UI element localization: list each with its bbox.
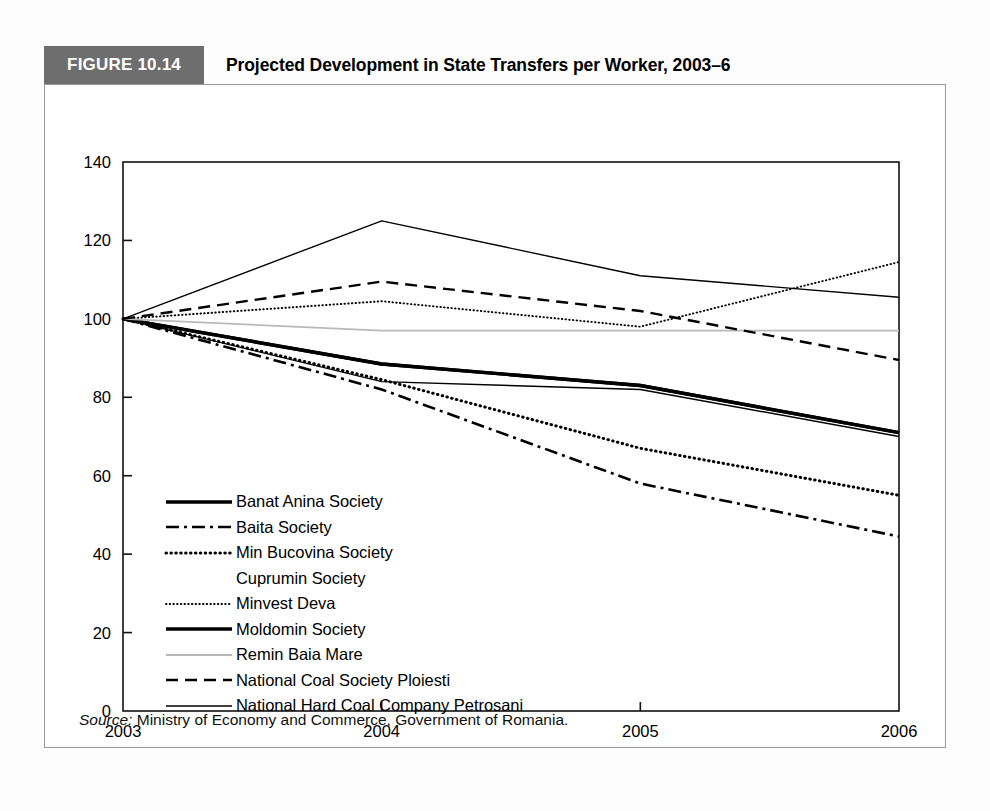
figure-header: FIGURE 10.14 Projected Development in St… [44, 46, 946, 84]
legend-item: Moldomin Society [164, 617, 594, 643]
legend-item-label: Moldomin Society [236, 620, 365, 639]
legend-item-label: Cuprumin Society [236, 569, 365, 588]
chart-series-line [123, 282, 899, 360]
chart-series-line [123, 221, 899, 319]
legend-item: Remin Baia Mare [164, 642, 594, 668]
legend-key-swatch [164, 493, 236, 511]
y-axis-tick-label: 40 [93, 545, 111, 563]
legend-item-label: National Coal Society Ploiesti [236, 671, 450, 690]
legend-item: National Coal Society Ploiesti [164, 668, 594, 694]
legend-key-swatch [164, 518, 236, 536]
legend-key-swatch [164, 646, 236, 664]
legend-item-label: Minvest Deva [236, 594, 335, 613]
legend-item: Min Bucovina Society [164, 540, 594, 566]
y-axis-tick-label: 60 [93, 467, 111, 485]
legend-key-swatch [164, 544, 236, 562]
chart-legend: Banat Anina SocietyBaita SocietyMin Buco… [164, 489, 594, 719]
y-axis-tick-label: 120 [83, 231, 111, 249]
legend-item: Banat Anina Society [164, 489, 594, 515]
source-text: Ministry of Economy and Commerce, Govern… [132, 711, 568, 728]
x-axis-tick-label: 2005 [622, 722, 659, 740]
y-axis-tick-label: 100 [83, 310, 111, 328]
chart-series-line [123, 319, 899, 495]
y-axis-tick-label: 140 [83, 153, 111, 171]
legend-key-swatch [164, 671, 236, 689]
legend-key-swatch [164, 620, 236, 638]
y-axis-tick-label: 80 [93, 388, 111, 406]
legend-item: Cuprumin Society [164, 566, 594, 592]
legend-key-swatch [164, 569, 236, 587]
source-label: Source: [79, 711, 132, 728]
y-axis-tick-label: 20 [93, 624, 111, 642]
figure-source-note: Source: Ministry of Economy and Commerce… [79, 711, 568, 729]
legend-item-label: Remin Baia Mare [236, 645, 363, 664]
figure-body: 0204060801001201402003200420052006 Banat… [44, 84, 946, 748]
x-axis-tick-label: 2006 [881, 722, 918, 740]
legend-item: Minvest Deva [164, 591, 594, 617]
legend-item: Baita Society [164, 515, 594, 541]
chart-series-line [123, 319, 899, 331]
legend-item-label: Min Bucovina Society [236, 543, 393, 562]
legend-item-label: Banat Anina Society [236, 492, 383, 511]
figure-title: Projected Development in State Transfers… [204, 46, 946, 84]
figure-number-badge: FIGURE 10.14 [44, 46, 204, 84]
legend-key-swatch [164, 595, 236, 613]
chart-series-line [123, 262, 899, 327]
chart-series-line [123, 319, 899, 437]
legend-item-label: Baita Society [236, 518, 332, 537]
chart-plot-area: 0204060801001201402003200420052006 Banat… [45, 85, 945, 747]
figure-container: FIGURE 10.14 Projected Development in St… [44, 46, 946, 748]
